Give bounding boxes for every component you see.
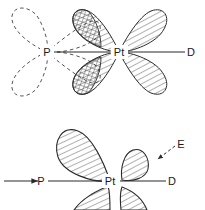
atom-label-p-bottom: P <box>37 175 44 187</box>
overlap-region-upper <box>73 10 101 47</box>
orbital-diagram-canvas: P Pt D P Pt D E <box>0 0 205 210</box>
lobe-upper-right-bottom <box>121 149 148 180</box>
electrophile-label-e: E <box>177 138 184 150</box>
ligand-label-d-top: D <box>187 46 195 58</box>
lobe-lower-left-bottom <box>74 186 110 210</box>
ligand-label-d-bottom: D <box>168 175 176 187</box>
atom-label-pt-bottom: Pt <box>105 175 115 187</box>
top-diagram: P Pt D <box>12 8 195 96</box>
atom-label-pt-top: Pt <box>114 46 124 58</box>
lobe-upper-left-bottom <box>57 130 110 182</box>
electrophile-pointer-arrow <box>158 146 175 159</box>
overlap-region-lower <box>73 57 101 94</box>
atom-label-p-top: P <box>43 46 50 58</box>
lobe-lower-right-bottom <box>120 187 147 210</box>
bottom-diagram: P Pt D E <box>4 130 185 210</box>
orbital-diagram-figure: P Pt D P Pt D E <box>0 0 205 210</box>
